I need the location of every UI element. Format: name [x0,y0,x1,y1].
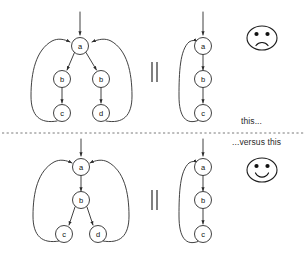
node-c-upper-left: c [54,105,71,122]
lower-panel: a b c d [33,139,277,243]
upper-left-graph: a b b c d [31,12,132,122]
node-label-b1-upper-left: b [60,75,64,84]
lower-right-graph: a b c [179,139,212,243]
upper-right-graph: a b c [179,12,212,122]
edge-a-to-b2-upper-left [86,53,97,71]
node-label-b2-upper-left: b [99,75,103,84]
node-label-d-lower-left: d [96,230,100,239]
equals-sign-upper [152,62,157,82]
node-label-b-upper-right: b [201,75,205,84]
node-b-upper-right: b [195,71,212,88]
sad-face-icon [247,26,277,50]
graph-figure-canvas: a b b c d [0,0,307,269]
node-label-b-lower-left: b [79,196,83,205]
node-label-c-upper-right: c [201,109,205,118]
upper-panel: a b b c d [31,12,277,122]
node-label-b-lower-right: b [201,196,205,205]
node-b2-upper-left: b [93,71,110,88]
figure-root: a b b c d [0,0,307,269]
node-b1-upper-left: b [54,71,71,88]
node-label-d-upper-left: d [99,109,103,118]
equals-sign-lower [152,190,157,210]
node-d-lower-left: d [90,226,107,243]
node-label-c-lower-left: c [62,230,66,239]
lower-left-graph: a b c d [33,139,129,243]
node-a-upper-right: a [195,38,212,55]
caption-this: this... [241,116,262,126]
node-c-lower-right: c [195,226,212,243]
caption-versus-this: ...versus this [232,137,281,147]
edge-b-to-d-lower-left [87,207,93,225]
node-d-upper-left: d [93,105,110,122]
node-a-upper-left: a [72,38,89,55]
edge-a-to-b1-upper-left [67,53,75,71]
node-b-lower-right: b [195,192,212,209]
node-c-upper-right: c [195,105,212,122]
edge-b-to-c-lower-left [69,207,75,225]
node-label-c-lower-right: c [201,230,205,239]
node-a-lower-right: a [195,159,212,176]
node-label-c-upper-left: c [60,109,64,118]
happy-face-icon [247,158,277,182]
node-a-lower-left: a [73,159,90,176]
node-c-lower-left: c [56,226,73,243]
node-b-lower-left: b [73,192,90,209]
